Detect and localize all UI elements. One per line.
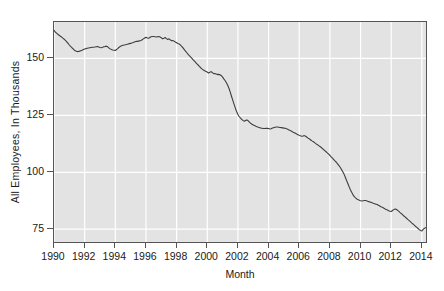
x-axis-tick-mark — [390, 243, 391, 248]
x-axis-tick-mark — [421, 243, 422, 248]
y-axis-tick-mark — [47, 114, 53, 115]
y-axis-label: All Employees, In Thousands — [9, 21, 25, 243]
y-axis-tick-mark — [47, 171, 53, 172]
x-axis-tick-mark — [268, 243, 269, 248]
x-axis-tick-mark — [84, 243, 85, 248]
grid-lines — [54, 22, 427, 243]
chart-figure: 75100125150 1990199219941996199820002002… — [0, 0, 444, 291]
x-axis-tick-mark — [114, 243, 115, 248]
x-axis-tick-mark — [237, 243, 238, 248]
x-axis-tick-mark — [360, 243, 361, 248]
x-axis-tick-mark — [298, 243, 299, 248]
y-axis-tick-mark — [47, 228, 53, 229]
x-axis-tick-mark — [329, 243, 330, 248]
y-axis-tick-mark — [47, 57, 53, 58]
x-axis-tick-mark — [176, 243, 177, 248]
plot-svg — [54, 22, 427, 243]
x-axis-label: Month — [53, 268, 427, 280]
x-axis-tick-mark — [145, 243, 146, 248]
x-axis-tick-label: 2014 — [401, 250, 441, 262]
x-axis-tick-mark — [206, 243, 207, 248]
x-axis-tick-mark — [53, 243, 54, 248]
plot-area — [53, 21, 427, 243]
data-line-all-employees — [54, 30, 426, 231]
